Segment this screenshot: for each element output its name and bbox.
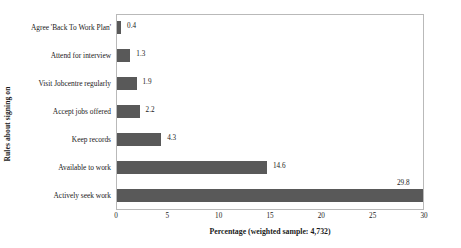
category-label: Actively seek work [54,190,111,202]
x-tick-label: 25 [369,212,376,220]
category-label: Attend for interview [51,50,111,62]
x-tick-label: 30 [420,212,427,220]
bar-chart: Rules about signing on Agree 'Back To Wo… [0,0,461,248]
x-axis-title: Percentage (weighted sample: 4,732) [116,227,424,236]
bar-value-label: 0.4 [127,20,136,33]
bar-value-label: 1.3 [136,48,145,61]
x-tick-label: 15 [266,212,273,220]
bar [117,161,267,174]
bar-value-label: 14.6 [273,160,286,173]
x-tick-label: 20 [318,212,325,220]
bar-value-label: 2.2 [146,104,155,117]
bar-row: 29.8 [117,183,423,211]
plot-area: 0.41.31.92.24.314.629.8 [116,14,424,210]
x-tick-label: 0 [114,212,118,220]
bar [117,105,140,118]
bar-row: 2.2 [117,99,423,127]
bar-row: 14.6 [117,155,423,183]
category-label: Available to work [58,162,111,174]
category-label: Keep records [72,134,111,146]
x-axis-tick-labels: 051015202530 [116,212,424,224]
bar-value-label: 29.8 [397,177,410,190]
bar [117,189,423,202]
bar [117,133,161,146]
category-label: Accept jobs offered [53,106,111,118]
category-label: Visit Jobcentre regularly [38,78,111,90]
category-label: Agree 'Back To Work Plan' [31,22,111,34]
bar [117,21,121,34]
bar-value-label: 1.9 [143,76,152,89]
x-tick-label: 5 [166,212,170,220]
x-tick-label: 10 [215,212,222,220]
bar-row: 0.4 [117,15,423,43]
bar-value-label: 4.3 [167,132,176,145]
bar [117,49,130,62]
category-axis-labels: Agree 'Back To Work Plan'Attend for inte… [10,14,114,210]
bar-row: 4.3 [117,127,423,155]
bars-layer: 0.41.31.92.24.314.629.8 [117,15,423,209]
bar-row: 1.3 [117,43,423,71]
bar-row: 1.9 [117,71,423,99]
bar [117,77,137,90]
